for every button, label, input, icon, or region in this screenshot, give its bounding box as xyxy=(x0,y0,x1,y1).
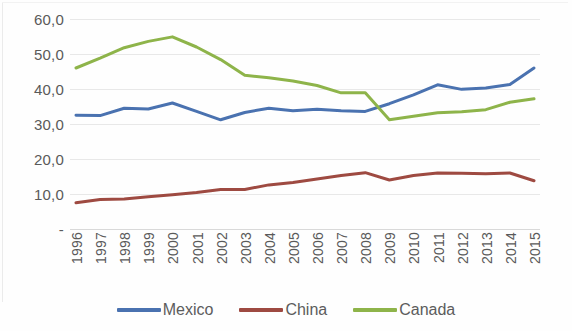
x-axis-tick-label: 1999 xyxy=(141,232,155,290)
series-lines xyxy=(70,19,540,229)
y-axis-tick-label: - xyxy=(2,221,64,238)
series-line-china xyxy=(76,173,534,203)
legend-line-swatch-icon xyxy=(117,308,161,312)
x-axis-tick-label: 2011 xyxy=(431,232,445,290)
x-axis-tick-label: 2007 xyxy=(334,232,348,290)
x-axis-tick-label: 2015 xyxy=(527,232,541,290)
x-axis-tick-label: 2002 xyxy=(214,232,228,290)
y-axis-labels: 60,050,040,030,020,010,0- xyxy=(0,19,64,229)
gridline-0 xyxy=(70,229,540,230)
x-axis-tick-label: 1996 xyxy=(69,232,83,290)
legend-item-mexico[interactable]: Mexico xyxy=(117,301,214,319)
legend-line-swatch-icon xyxy=(239,308,283,312)
x-axis-tick-label: 2003 xyxy=(238,232,252,290)
y-axis-tick-label: 60,0 xyxy=(2,11,64,28)
plot-area xyxy=(70,19,540,229)
x-axis-tick-label: 2014 xyxy=(503,232,517,290)
y-axis-tick-label: 30,0 xyxy=(2,116,64,133)
chart-legend: MexicoChinaCanada xyxy=(0,297,572,323)
y-axis-tick-label: 20,0 xyxy=(2,151,64,168)
line-chart: 60,050,040,030,020,010,0- 19961997199819… xyxy=(0,0,572,331)
y-axis-tick-label: 10,0 xyxy=(2,186,64,203)
y-axis-tick-label: 50,0 xyxy=(2,46,64,63)
legend-item-canada[interactable]: Canada xyxy=(353,301,455,319)
legend-label: Canada xyxy=(399,301,455,319)
x-axis-tick-label: 1997 xyxy=(93,232,107,290)
chart-frame-top-edge xyxy=(2,2,568,3)
x-axis-tick-label: 1998 xyxy=(117,232,131,290)
x-axis-tick-label: 2010 xyxy=(406,232,420,290)
y-axis-tick-label: 40,0 xyxy=(2,81,64,98)
x-axis-tick-label: 2004 xyxy=(262,232,276,290)
legend-label: China xyxy=(285,301,327,319)
legend-item-china[interactable]: China xyxy=(239,301,327,319)
x-axis-tick-label: 2008 xyxy=(358,232,372,290)
x-axis-tick-label: 2009 xyxy=(382,232,396,290)
legend-label: Mexico xyxy=(163,301,214,319)
x-axis-tick-label: 2005 xyxy=(286,232,300,290)
legend-line-swatch-icon xyxy=(353,308,397,312)
x-axis-tick-label: 2000 xyxy=(165,232,179,290)
x-axis-tick-label: 2006 xyxy=(310,232,324,290)
x-axis-tick-label: 2001 xyxy=(190,232,204,290)
x-axis-labels: 1996199719981999200020012002200320042005… xyxy=(70,232,540,294)
x-axis-tick-label: 2012 xyxy=(455,232,469,290)
x-axis-tick-label: 2013 xyxy=(479,232,493,290)
